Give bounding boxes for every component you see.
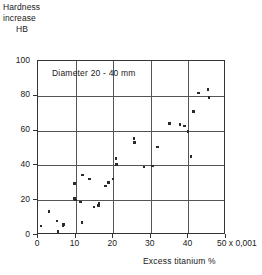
gridline-vertical (76, 61, 77, 233)
figure-scatter-hardness-vs-excess-titanium: Hardness increase HB Diameter 20 - 40 mm… (0, 0, 262, 275)
y-axis-tick-label: 20 (6, 195, 30, 204)
y-axis-tick (33, 95, 37, 96)
y-axis-tick (33, 164, 37, 165)
data-point (88, 178, 91, 181)
data-point (62, 223, 65, 226)
x-axis-tick (225, 234, 226, 238)
data-point (143, 166, 146, 169)
cut-off-caption (4, 268, 6, 275)
x-axis-tick-label: 30 (135, 239, 165, 248)
gridline-vertical (188, 61, 189, 233)
x-axis-tick-label: 10 (60, 239, 90, 248)
data-point (151, 165, 154, 168)
data-point (207, 88, 210, 91)
x-axis-tick (187, 234, 188, 238)
data-point (48, 210, 51, 213)
x-axis-tick-label: 20 (97, 239, 127, 248)
y-axis-tick-label: 80 (6, 90, 30, 99)
x-axis-tick (150, 234, 151, 238)
data-point (156, 146, 159, 149)
gridline-vertical (113, 61, 114, 233)
data-point (179, 123, 182, 126)
y-axis-caption-line-2: increase (3, 13, 40, 24)
x-axis-tick (75, 234, 76, 238)
data-point (133, 137, 136, 140)
data-point (133, 141, 136, 144)
data-point (93, 206, 96, 209)
data-point (40, 225, 43, 228)
x-axis-tick-label: 0 (22, 239, 52, 248)
data-point (74, 199, 77, 202)
data-point (81, 221, 84, 224)
data-point (73, 182, 76, 185)
y-axis-tick-label: 40 (6, 160, 30, 169)
data-point (190, 155, 193, 158)
data-point (79, 201, 82, 204)
data-point (107, 181, 110, 184)
y-axis-caption: Hardness increase HB (3, 2, 40, 36)
x-axis-tick (37, 234, 38, 238)
data-point (208, 96, 211, 99)
data-point (56, 220, 59, 223)
y-axis-tick (33, 199, 37, 200)
plot-annotation-diameter: Diameter 20 - 40 mm (52, 68, 136, 78)
data-point (57, 230, 60, 233)
data-point (112, 178, 115, 181)
data-point (115, 157, 118, 160)
x-axis-tick-label: 50 x 0,001 (217, 239, 262, 248)
x-axis-title: Excess titanium % (143, 256, 216, 266)
plot-area (37, 60, 225, 234)
data-point (168, 122, 171, 125)
data-point (115, 163, 118, 166)
gridline-horizontal (38, 96, 224, 97)
data-point (183, 125, 186, 128)
data-point (98, 202, 101, 205)
data-point (81, 174, 84, 177)
y-axis-tick-label: 60 (6, 125, 30, 134)
y-axis-caption-line-1: Hardness (3, 2, 40, 13)
y-axis-unit-label: HB (3, 24, 40, 35)
x-axis-tick-label: 40 (172, 239, 202, 248)
data-point (104, 185, 107, 188)
gridline-horizontal (38, 165, 224, 166)
gridline-horizontal (38, 200, 224, 201)
gridline-horizontal (38, 131, 224, 132)
data-point (187, 130, 190, 133)
data-point (192, 110, 195, 113)
x-axis-tick (112, 234, 113, 238)
data-point (197, 92, 200, 95)
y-axis-tick-label: 0 (6, 230, 30, 239)
y-axis-tick-label: 100 (6, 56, 30, 65)
y-axis-tick (33, 130, 37, 131)
gridline-vertical (151, 61, 152, 233)
